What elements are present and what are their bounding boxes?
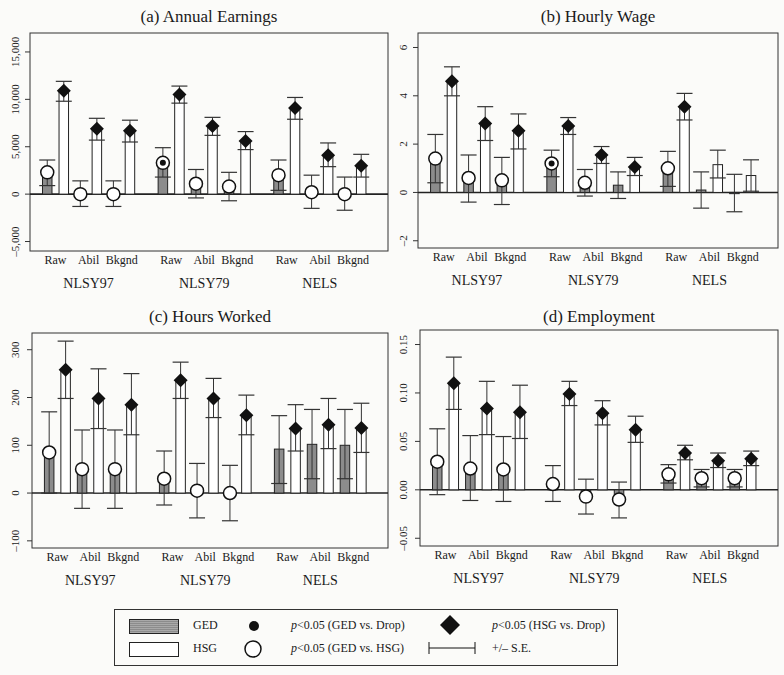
- category-label: Bkgnd: [611, 548, 643, 562]
- panel-title: (c) Hours Worked: [149, 307, 272, 326]
- open-circle-marker-icon: [431, 455, 444, 468]
- diamond-icon: [439, 614, 461, 636]
- bar: [290, 108, 300, 194]
- category-label: Raw: [45, 253, 67, 267]
- bar-ged-nlsy97-bkgnd: [495, 437, 511, 502]
- panel-title: (b) Hourly Wage: [541, 7, 655, 26]
- open-circle-marker-icon: [158, 472, 171, 485]
- bar-ged-nlsy79-bkgnd: [222, 465, 238, 520]
- open-circle-marker-icon: [613, 493, 626, 506]
- group-label: NLSY97: [63, 276, 114, 291]
- open-circle-marker-icon: [662, 468, 675, 481]
- category-label: Abil: [584, 548, 606, 562]
- filled-dot-icon: [247, 619, 261, 633]
- group-label: NLSY79: [569, 571, 620, 586]
- bar-hsg-nlsy79-bkgnd: [628, 416, 644, 490]
- open-circle-marker-icon: [661, 162, 674, 175]
- category-label: Abil: [466, 250, 488, 264]
- panel-c: (c) Hours Worked–1000100200300RawAbilBkg…: [9, 307, 388, 588]
- bar-hsg-nels-raw: [287, 97, 303, 194]
- open-circle-marker-icon: [43, 446, 56, 459]
- open-circle-marker-icon: [305, 186, 318, 199]
- bar: [447, 81, 457, 192]
- group-label: NELS: [302, 276, 337, 291]
- bar-ged-nels-raw: [660, 151, 676, 192]
- bar-ged-nlsy97-abil: [462, 436, 478, 501]
- bar-hsg-nlsy97-raw: [444, 67, 460, 193]
- y-tick-label: –2: [397, 235, 409, 247]
- bar-ged-nels-bkgnd: [337, 409, 353, 493]
- panel-a: (a) Annual Earnings–5,00005,00010,00015,…: [9, 7, 388, 291]
- category-label: Bkgnd: [337, 253, 369, 267]
- bar-ged-nlsy97-raw: [41, 412, 57, 493]
- diamond-legend-label: p<0.05 (HSG vs. Drop): [492, 618, 605, 633]
- bar-hsg-nlsy79-abil: [204, 117, 220, 194]
- group-label: NLSY79: [180, 573, 231, 588]
- bar-ged-nlsy79-bkgnd: [221, 172, 237, 200]
- bar-ged-nlsy79-raw: [156, 451, 172, 505]
- bar: [59, 91, 69, 194]
- bar-ged-nlsy79-raw: [545, 466, 561, 502]
- bar-hsg-nlsy79-raw: [171, 86, 187, 194]
- bar-hsg-nlsy79-abil: [206, 378, 222, 493]
- open-circle-marker-icon: [338, 188, 351, 201]
- bar-hsg-nlsy97-bkgnd: [512, 385, 528, 490]
- group-label: NELS: [692, 273, 727, 288]
- category-label: Bkgnd: [221, 253, 253, 267]
- category-label: Bkgnd: [496, 548, 528, 562]
- bar-hsg-nlsy79-abil: [593, 147, 609, 193]
- y-tick-label: 2: [397, 141, 409, 147]
- filled-dot-marker-icon: [549, 160, 555, 166]
- y-tick-label: 0.00: [397, 480, 409, 500]
- group-label: NELS: [692, 571, 727, 586]
- y-tick-label: 0: [397, 189, 409, 195]
- open-circle-marker-icon: [462, 171, 475, 184]
- panel-d: (d) Employment–0.050.000.050.100.15RawAb…: [397, 307, 778, 586]
- open-circle-marker-icon: [695, 472, 708, 485]
- y-tick-label: 5,000: [9, 134, 21, 159]
- category-label: Raw: [665, 250, 687, 264]
- bar-ged-nlsy79-abil: [578, 479, 594, 514]
- bar-ged-nlsy79-abil: [189, 463, 205, 517]
- bar-hsg-nels-raw: [677, 445, 693, 490]
- panel-title: (d) Employment: [543, 307, 655, 326]
- bar: [175, 95, 185, 195]
- group-label: NELS: [303, 573, 338, 588]
- bar-ged-nlsy97-raw: [39, 160, 55, 194]
- circle-legend-label: p<0.05 (GED vs. HSG): [291, 641, 404, 656]
- category-label: Raw: [160, 253, 182, 267]
- bar-hsg-nlsy97-bkgnd: [122, 120, 138, 194]
- y-tick-label: 0.10: [397, 383, 409, 403]
- category-label: Bkgnd: [727, 548, 759, 562]
- category-label: Bkgnd: [107, 550, 139, 564]
- dot-legend-text: <0.05 (GED vs. Drop): [297, 618, 405, 632]
- group-label: NLSY97: [452, 273, 503, 288]
- open-circle-icon: [243, 639, 263, 659]
- se-legend-label: +/– S.E.: [492, 641, 531, 656]
- y-tick-label: 0.15: [397, 334, 409, 354]
- category-label: Raw: [276, 253, 298, 267]
- panel-b: (b) Hourly Wage–20246RawAbilBkgndNLSY97R…: [397, 7, 778, 288]
- group-label: NLSY97: [65, 573, 116, 588]
- category-label: Bkgnd: [610, 250, 642, 264]
- y-tick-label: 6: [397, 44, 409, 50]
- y-tick-label: 10,000: [9, 84, 21, 115]
- bar-hsg-nlsy79-bkgnd: [627, 157, 643, 192]
- bar-hsg-nlsy79-bkgnd: [238, 132, 254, 195]
- bar-hsg-nlsy97-abil: [89, 118, 105, 194]
- category-label: Abil: [468, 548, 490, 562]
- bar-hsg-nels-raw: [288, 405, 304, 493]
- open-circle-marker-icon: [579, 490, 592, 503]
- category-label: Abil: [80, 550, 102, 564]
- bar-ged-nlsy97-bkgnd: [494, 157, 510, 204]
- category-label: Abil: [195, 550, 217, 564]
- bar-hsg-nlsy79-bkgnd: [238, 395, 254, 493]
- figure: (a) Annual Earnings–5,00005,00010,00015,…: [0, 0, 784, 610]
- category-label: Raw: [433, 250, 455, 264]
- bar-ged-nels-raw: [271, 160, 287, 194]
- panel-title: (a) Annual Earnings: [141, 7, 278, 26]
- open-circle-marker-icon: [223, 180, 236, 193]
- open-circle-marker-icon: [728, 472, 741, 485]
- bar-ged-nlsy97-raw: [429, 429, 445, 495]
- bar-hsg-nels-abil: [710, 150, 726, 192]
